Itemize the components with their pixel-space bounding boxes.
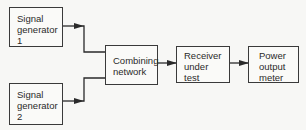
connector-gen2-to-combining: [62, 78, 105, 101]
block-label-line: 2: [17, 111, 62, 122]
block-label-line: network: [113, 66, 157, 77]
block-label-line: generator: [17, 24, 62, 35]
block-label-line: Combining: [113, 55, 157, 66]
block-label-line: Signal: [17, 13, 62, 24]
block-signal-generator-2: Signal generator 2: [9, 83, 63, 125]
block-label-line: under: [184, 61, 229, 72]
block-label-line: generator: [17, 100, 62, 111]
block-label-line: meter: [259, 72, 298, 83]
block-label-line: Receiver: [184, 50, 229, 61]
block-label-line: output: [259, 61, 298, 72]
block-combining-network: Combining network: [105, 45, 158, 85]
connector-gen1-to-combining: [62, 26, 105, 52]
block-label-line: 1: [17, 35, 62, 46]
block-label-line: test: [184, 72, 229, 83]
block-label-line: Power: [259, 50, 298, 61]
block-signal-generator-1: Signal generator 1: [9, 7, 63, 47]
block-receiver-under-test: Receiver under test: [176, 46, 230, 83]
block-power-output-meter: Power output meter: [248, 46, 299, 83]
block-label-line: Signal: [17, 89, 62, 100]
